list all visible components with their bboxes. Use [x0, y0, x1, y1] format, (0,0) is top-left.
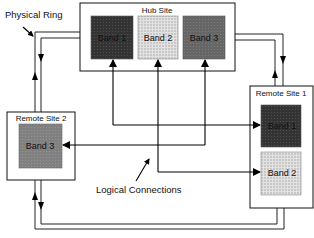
remote-site-1: Remote Site 1 Band 1 Band 2	[250, 86, 313, 208]
svg-text:Band 3: Band 3	[190, 33, 219, 43]
remote2-band-3: Band 3	[19, 124, 62, 168]
hub-band-2: Band 2	[138, 16, 178, 59]
hub-band-1: Band 1	[91, 16, 133, 59]
hub-site-title: Hub Site	[142, 6, 173, 15]
physical-ring-pointer-icon	[23, 27, 33, 36]
svg-text:Band 2: Band 2	[144, 33, 173, 43]
logical-connections-label: Logical Connections	[96, 184, 182, 195]
logical-connections	[63, 60, 260, 172]
remote-site-2: Remote Site 2 Band 3	[7, 112, 75, 180]
remote-site-2-title: Remote Site 2	[16, 114, 67, 123]
remote1-band-1: Band 1	[261, 105, 301, 147]
hub-band-3: Band 3	[183, 16, 225, 59]
network-diagram: Hub Site Band 1 Band 2 Band 3 Remote Sit…	[0, 0, 314, 238]
svg-text:Band 1: Band 1	[98, 33, 127, 43]
remote1-band-2: Band 2	[261, 152, 301, 195]
svg-text:Band 2: Band 2	[268, 168, 297, 178]
physical-ring-label: Physical Ring	[5, 9, 63, 20]
logical-connections-pointer-icon	[136, 159, 149, 181]
svg-text:Band 3: Band 3	[26, 141, 55, 151]
remote-site-1-title: Remote Site 1	[256, 89, 307, 98]
svg-text:Band 1: Band 1	[268, 121, 297, 131]
